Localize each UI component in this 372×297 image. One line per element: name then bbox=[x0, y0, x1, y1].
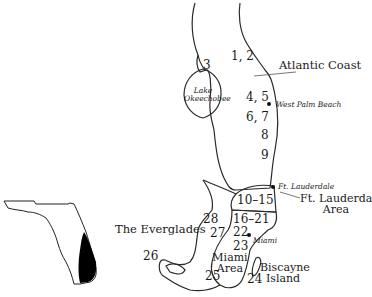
site-number-10-15: 10–15 bbox=[237, 194, 274, 206]
site-number-28: 28 bbox=[203, 213, 218, 225]
site-number-25: 25 bbox=[205, 270, 220, 282]
site-number-6-7: 6, 7 bbox=[246, 111, 269, 123]
ft-lauderdale-area-label: Ft. Lauderdale Area bbox=[300, 193, 372, 215]
ft-lauderdale-area-line2: Area bbox=[300, 204, 372, 215]
biscayne-line2: Island bbox=[260, 273, 306, 284]
ft-lauderdale-pointer bbox=[280, 192, 300, 198]
site-number-4-5: 4, 5 bbox=[246, 91, 269, 103]
miami-city-label: Miami bbox=[253, 237, 277, 245]
everglades-inner-loop bbox=[166, 264, 185, 274]
lake-label-line2: Okeechobee bbox=[184, 95, 222, 103]
everglades-label: The Everglades bbox=[115, 224, 206, 235]
site-number-1-2: 1, 2 bbox=[231, 50, 254, 62]
site-number-9: 9 bbox=[261, 149, 269, 161]
site-number-22: 22 bbox=[233, 226, 248, 238]
florida-inset bbox=[4, 201, 96, 284]
site-number-16-21: 16–21 bbox=[233, 213, 270, 225]
site-number-26: 26 bbox=[143, 250, 158, 262]
site-number-27: 27 bbox=[210, 227, 225, 239]
lake-okeechobee-label: Lake Okeechobee bbox=[184, 87, 222, 103]
atlantic-coast-pointer bbox=[254, 72, 296, 76]
ft-lauderdale-city-label: Ft. Lauderdale bbox=[278, 183, 334, 191]
ft-lauderdale-dot bbox=[271, 185, 275, 189]
site-number-8: 8 bbox=[261, 129, 269, 141]
map-canvas bbox=[0, 0, 372, 297]
biscayne-island-label: Biscayne Island bbox=[260, 262, 306, 284]
atlantic-coast-label: Atlantic Coast bbox=[279, 60, 361, 71]
west-palm-beach-label: West Palm Beach bbox=[276, 101, 341, 109]
site-number-3: 3 bbox=[203, 59, 211, 71]
